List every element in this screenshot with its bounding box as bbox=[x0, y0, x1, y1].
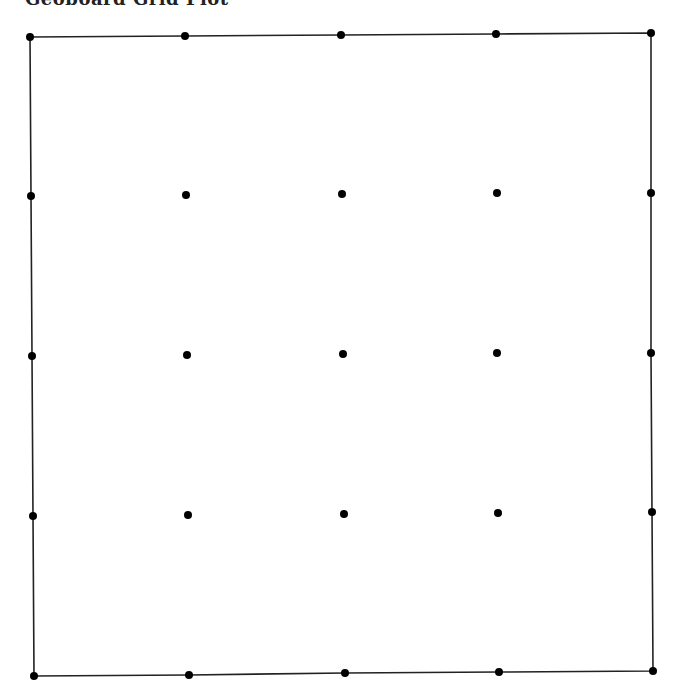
grid-point bbox=[493, 189, 501, 197]
grid-point bbox=[495, 668, 503, 676]
grid-point bbox=[30, 672, 38, 680]
grid-point bbox=[29, 512, 37, 520]
grid-point bbox=[648, 508, 656, 516]
grid-point bbox=[340, 510, 348, 518]
grid-point bbox=[27, 192, 35, 200]
grid-point bbox=[647, 29, 655, 37]
grid-point bbox=[182, 191, 190, 199]
grid-point bbox=[649, 667, 657, 675]
grid-point bbox=[337, 31, 345, 39]
grid-point bbox=[181, 32, 189, 40]
grid-point bbox=[493, 349, 501, 357]
grid-point bbox=[339, 350, 347, 358]
grid-point bbox=[184, 511, 192, 519]
grid-point bbox=[647, 349, 655, 357]
grid-point bbox=[494, 509, 502, 517]
grid-point bbox=[26, 33, 34, 41]
grid-point bbox=[338, 190, 346, 198]
grid-point bbox=[28, 352, 36, 360]
grid-diagram bbox=[0, 0, 682, 694]
grid-point bbox=[341, 669, 349, 677]
grid-point bbox=[492, 30, 500, 38]
grid-point bbox=[185, 671, 193, 679]
grid-point bbox=[647, 189, 655, 197]
grid-point bbox=[183, 351, 191, 359]
